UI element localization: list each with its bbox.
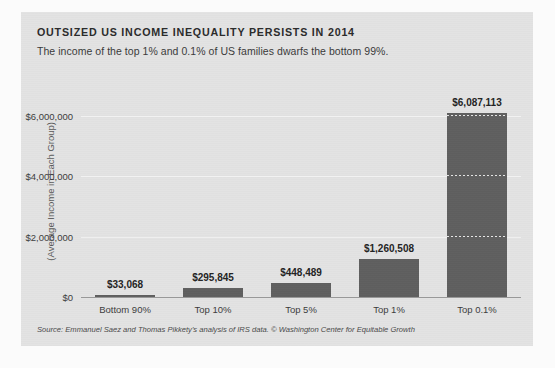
bar[interactable] — [183, 288, 243, 297]
bar-gridline — [447, 115, 507, 116]
bar[interactable] — [95, 295, 155, 297]
bar-value-label: $1,260,508 — [364, 243, 414, 254]
bar-value-label: $448,489 — [280, 267, 322, 278]
y-axis-tick-label: $4,000,000 — [0, 171, 73, 182]
source-note: Source: Emmanuel Saez and Thomas Pikkety… — [37, 325, 415, 334]
bar-value-label: $33,068 — [107, 279, 143, 290]
x-axis-category-label: Bottom 90% — [99, 304, 151, 315]
bar-gridline — [447, 236, 507, 237]
bar-value-label: $295,845 — [192, 272, 234, 283]
y-axis-tick-label: $0 — [0, 292, 73, 303]
x-axis-category-label: Top 1% — [373, 304, 405, 315]
chart-screenshot: OUTSIZED US INCOME INEQUALITY PERSISTS I… — [0, 0, 555, 368]
bar-gridline — [447, 175, 507, 176]
x-axis-category-label: Top 10% — [195, 304, 232, 315]
x-axis-category-label: Top 0.1% — [457, 304, 497, 315]
bar[interactable] — [447, 113, 507, 297]
bar[interactable] — [359, 259, 419, 297]
bar[interactable] — [271, 283, 331, 297]
chart-card: OUTSIZED US INCOME INEQUALITY PERSISTS I… — [21, 12, 533, 346]
bar-value-label: $6,087,113 — [452, 97, 502, 108]
x-axis-line — [81, 297, 521, 298]
chart-title: OUTSIZED US INCOME INEQUALITY PERSISTS I… — [37, 26, 355, 38]
y-axis-tick-label: $6,000,000 — [0, 111, 73, 122]
x-axis-category-label: Top 5% — [285, 304, 317, 315]
chart-subtitle: The income of the top 1% and 0.1% of US … — [37, 45, 388, 57]
y-axis-tick-label: $2,000,000 — [0, 231, 73, 242]
plot-area: $0$2,000,000$4,000,000$6,000,000$33,068B… — [81, 87, 521, 309]
